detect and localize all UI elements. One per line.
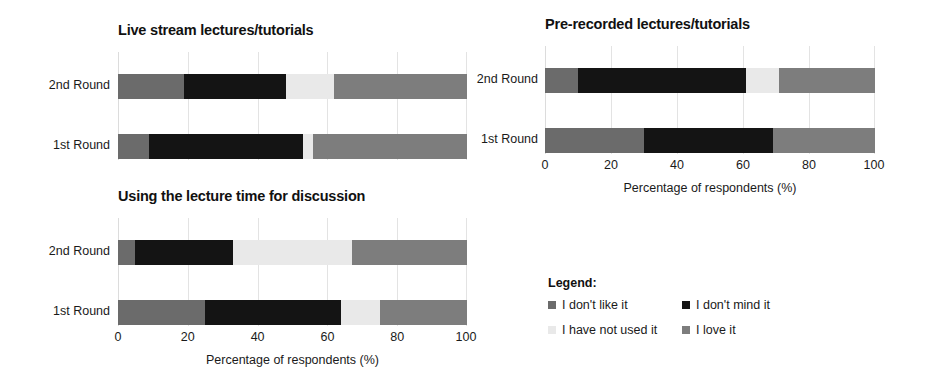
segment-dont-mind-it: [644, 128, 773, 153]
x-tick-100: 100: [864, 158, 885, 172]
x-axis-ticks: 0 20 40 60 80 100: [118, 330, 467, 348]
segment-dont-mind-it: [578, 68, 746, 93]
legend-item-love-it[interactable]: I love it: [682, 323, 878, 337]
legend-item-label: I have not used it: [562, 323, 657, 337]
bar-row-1st-round: [545, 128, 875, 153]
segment-dont-like-it: [545, 128, 644, 153]
x-tick-0: 0: [542, 158, 549, 172]
y-label-2nd-round: 2nd Round: [0, 244, 110, 258]
segment-dont-mind-it: [149, 134, 303, 159]
segment-love-it: [334, 74, 467, 99]
segment-love-it: [313, 134, 467, 159]
legend-swatch-icon: [682, 301, 690, 309]
segment-have-not-used-it: [746, 68, 779, 93]
legend-item-label: I don't mind it: [696, 298, 770, 312]
legend-swatch-icon: [548, 326, 556, 334]
legend-item-have-not-used-it[interactable]: I have not used it: [548, 323, 676, 337]
x-tick-20: 20: [604, 158, 618, 172]
segment-have-not-used-it: [233, 240, 352, 265]
segment-dont-mind-it: [184, 74, 285, 99]
bar-row-2nd-round: [545, 68, 875, 93]
legend: Legend: I don't like it I don't mind it …: [548, 276, 878, 337]
bar-rows: [118, 218, 467, 326]
legend-swatch-icon: [682, 326, 690, 334]
y-label-1st-round: 1st Round: [470, 132, 538, 146]
segment-love-it: [779, 68, 875, 93]
segment-have-not-used-it: [303, 134, 313, 159]
chart-title: Live stream lectures/tutorials: [118, 22, 478, 38]
bar-row-2nd-round: [118, 74, 467, 99]
legend-title: Legend:: [548, 276, 878, 290]
x-tick-20: 20: [181, 330, 195, 344]
x-tick-0: 0: [115, 330, 122, 344]
segment-dont-like-it: [118, 240, 135, 265]
segment-dont-like-it: [118, 74, 184, 99]
segment-love-it: [773, 128, 875, 153]
segment-have-not-used-it: [286, 74, 335, 99]
legend-item-dont-mind-it[interactable]: I don't mind it: [682, 298, 878, 312]
segment-dont-mind-it: [135, 240, 233, 265]
legend-item-label: I don't like it: [562, 298, 628, 312]
x-axis-title: Percentage of respondents (%): [545, 181, 875, 195]
bar-rows: [118, 52, 467, 160]
legend-item-label: I love it: [696, 323, 736, 337]
x-tick-60: 60: [320, 330, 334, 344]
y-label-1st-round: 1st Round: [0, 304, 110, 318]
chart-panel-lecture-discussion: Using the lecture time for discussion 2n…: [0, 180, 500, 392]
y-label-2nd-round: 2nd Round: [0, 78, 110, 92]
x-tick-40: 40: [670, 158, 684, 172]
legend-swatch-icon: [548, 301, 556, 309]
segment-dont-like-it: [118, 300, 205, 325]
bar-row-2nd-round: [118, 240, 467, 265]
plot-area: [118, 52, 467, 160]
y-axis-labels: 2nd Round 1st Round: [0, 52, 110, 160]
chart-title: Using the lecture time for discussion: [118, 188, 498, 204]
segment-dont-like-it: [118, 134, 149, 159]
chart-title: Pre-recorded lectures/tutorials: [545, 16, 925, 32]
x-tick-100: 100: [456, 330, 477, 344]
bar-row-1st-round: [118, 134, 467, 159]
x-tick-80: 80: [802, 158, 816, 172]
legend-items: I don't like it I don't mind it I have n…: [548, 298, 878, 337]
segment-have-not-used-it: [341, 300, 379, 325]
plot-area: [545, 46, 875, 154]
bar-row-1st-round: [118, 300, 467, 325]
y-label-2nd-round: 2nd Round: [470, 72, 538, 86]
bar-rows: [545, 46, 875, 154]
x-axis-ticks: 0 20 40 60 80 100: [545, 158, 875, 176]
x-tick-40: 40: [251, 330, 265, 344]
segment-love-it: [352, 240, 467, 265]
segment-love-it: [380, 300, 467, 325]
chart-panel-pre-recorded: Pre-recorded lectures/tutorials 2nd Roun…: [470, 0, 936, 205]
x-tick-80: 80: [390, 330, 404, 344]
y-label-1st-round: 1st Round: [0, 138, 110, 152]
y-axis-labels: 2nd Round 1st Round: [0, 218, 110, 326]
x-axis-title: Percentage of respondents (%): [118, 353, 467, 367]
segment-dont-like-it: [545, 68, 578, 93]
chart-panel-live-stream: Live stream lectures/tutorials 2nd Round…: [0, 0, 500, 185]
segment-dont-mind-it: [205, 300, 341, 325]
y-axis-labels: 2nd Round 1st Round: [470, 46, 538, 154]
legend-item-dont-like-it[interactable]: I don't like it: [548, 298, 676, 312]
plot-area: [118, 218, 467, 326]
x-tick-60: 60: [736, 158, 750, 172]
